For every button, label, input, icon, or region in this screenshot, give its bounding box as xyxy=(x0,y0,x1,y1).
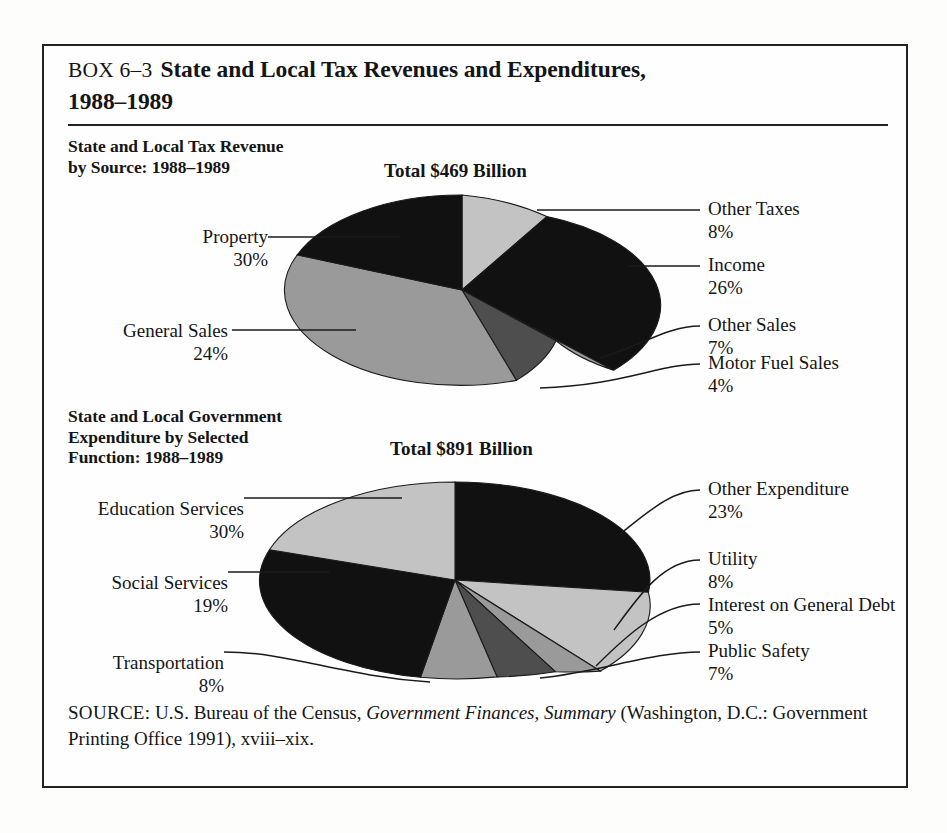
pie-2-label-public-safety: Public Safety 7% xyxy=(708,640,810,685)
source-word: SOURCE: xyxy=(68,702,150,723)
pie-2-label-other-expenditure-pct: 23% xyxy=(708,501,849,524)
pie-2-label-social: Social Services 19% xyxy=(72,572,228,617)
pie-2-label-interest-name: Interest on General Debt xyxy=(708,594,895,617)
pie-2-label-public-safety-name: Public Safety xyxy=(708,640,810,663)
pie-1-label-property-name: Property xyxy=(146,226,268,249)
pie-2-label-social-pct: 19% xyxy=(72,595,228,618)
pie-2-label-interest: Interest on General Debt 5% xyxy=(708,594,895,639)
source-publication-title: Government Finances, Summary xyxy=(366,702,616,723)
pie-1-label-motor-fuel: Motor Fuel Sales 4% xyxy=(708,352,839,397)
box-title-block: BOX 6–3 State and Local Tax Revenues and… xyxy=(68,56,858,115)
pie-1-label-other-taxes: Other Taxes 8% xyxy=(708,198,800,243)
pie-2-label-other-expenditure: Other Expenditure 23% xyxy=(708,478,849,523)
pie-2-label-public-safety-pct: 7% xyxy=(708,663,810,686)
pie-1-label-income-name: Income xyxy=(708,254,765,277)
box-figure-page: BOX 6–3 State and Local Tax Revenues and… xyxy=(0,0,947,833)
pie-2-label-utility-pct: 8% xyxy=(708,571,758,594)
box-number-label: BOX 6–3 xyxy=(68,58,152,82)
pie-1-label-other-sales-name: Other Sales xyxy=(708,314,796,337)
pie-1-label-other-taxes-pct: 8% xyxy=(708,221,800,244)
pie-2-label-utility-name: Utility xyxy=(708,548,758,571)
source-note: SOURCE: U.S. Bureau of the Census, Gover… xyxy=(68,700,886,751)
pie-2-label-other-expenditure-name: Other Expenditure xyxy=(708,478,849,501)
pie-2-slice-other-expenditure xyxy=(455,482,650,592)
pie-2-label-utility: Utility 8% xyxy=(708,548,758,593)
pie-1-label-motor-fuel-name: Motor Fuel Sales xyxy=(708,352,839,375)
pie-1-label-motor-fuel-pct: 4% xyxy=(708,375,839,398)
pie-1-label-property-pct: 30% xyxy=(146,249,268,272)
pie-2-label-transportation: Transportation 8% xyxy=(72,652,224,697)
pie-1-label-general-sales-pct: 24% xyxy=(76,343,228,366)
leader-other-expenditure xyxy=(620,490,700,534)
pie-2-label-education-name: Education Services xyxy=(72,498,244,521)
title-divider-rule xyxy=(68,124,888,126)
leader-motor-fuel xyxy=(540,364,700,388)
pie-2-label-education-pct: 30% xyxy=(72,521,244,544)
pie-2-label-interest-pct: 5% xyxy=(708,617,895,640)
source-text-a: U.S. Bureau of the Census, xyxy=(150,702,366,723)
box-title-text: State and Local Tax Revenues and Expendi… xyxy=(160,56,645,82)
box-title-line-1: BOX 6–3 State and Local Tax Revenues and… xyxy=(68,56,858,83)
pie-1-label-income-pct: 26% xyxy=(708,277,765,300)
pie-2-label-education: Education Services 30% xyxy=(72,498,244,543)
pie-2-label-transportation-name: Transportation xyxy=(72,652,224,675)
box-title-line-2: 1988–1989 xyxy=(68,88,858,115)
pie-2-label-transportation-pct: 8% xyxy=(72,675,224,698)
pie-2-slices xyxy=(259,482,650,679)
pie-1-label-other-taxes-name: Other Taxes xyxy=(708,198,800,221)
pie-1-label-income: Income 26% xyxy=(708,254,765,299)
pie-1-label-general-sales: General Sales 24% xyxy=(76,320,228,365)
pie-1-label-property: Property 30% xyxy=(146,226,268,271)
chart-2-heading-line-1: State and Local Government xyxy=(68,406,398,427)
pie-1-label-general-sales-name: General Sales xyxy=(76,320,228,343)
pie-2-label-social-name: Social Services xyxy=(72,572,228,595)
